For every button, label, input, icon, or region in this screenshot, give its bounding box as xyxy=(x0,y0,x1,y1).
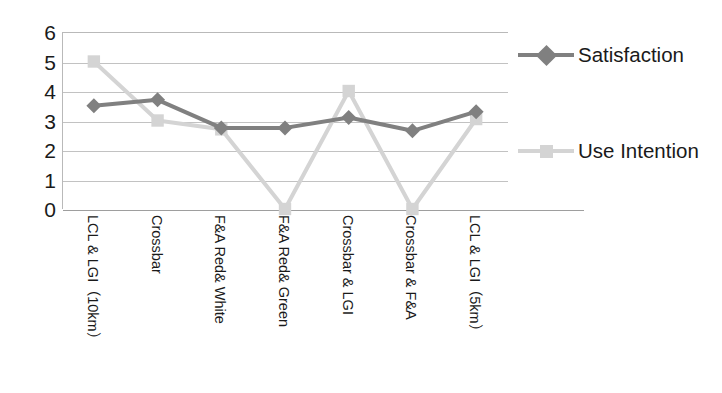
y-axis-tick-label: 4 xyxy=(44,81,56,102)
y-axis-tick-label: 5 xyxy=(44,51,56,72)
y-axis: 0123456 xyxy=(26,32,56,209)
legend-label: Use Intention xyxy=(578,140,699,163)
y-axis-tick-label: 1 xyxy=(44,169,56,190)
x-axis-category-label: F&A Red& Green xyxy=(276,215,291,327)
x-axis-category-label: Crossbar & LGI xyxy=(339,215,354,315)
legend-marker-square-icon xyxy=(518,140,574,162)
data-point-marker xyxy=(341,110,356,125)
series-layer xyxy=(62,32,508,209)
data-point-marker xyxy=(86,98,101,113)
series-satisfaction xyxy=(86,92,483,138)
data-point-marker xyxy=(150,92,165,107)
x-axis-category-label: Crossbar & F&A xyxy=(403,215,418,320)
legend-entry[interactable]: Satisfaction xyxy=(518,44,684,67)
x-axis-category-label: Crossbar xyxy=(148,215,163,274)
data-point-marker xyxy=(151,114,163,126)
y-axis-tick-label: 3 xyxy=(44,110,56,131)
data-point-marker xyxy=(405,123,420,138)
x-axis-category-label: LCL & LGI（5km） xyxy=(467,215,482,338)
legend-entry[interactable]: Use Intention xyxy=(518,140,699,163)
y-axis-tick-label: 6 xyxy=(44,22,56,43)
plot-area xyxy=(62,32,508,209)
data-point-marker xyxy=(88,55,100,67)
chart-container: 0123456 LCL & LGI（10km）CrossbarF&A Red& … xyxy=(0,0,722,393)
y-axis-tick-label: 0 xyxy=(44,199,56,220)
data-point-marker xyxy=(343,85,355,97)
legend-label: Satisfaction xyxy=(578,44,684,67)
x-axis-category-label: F&A Red& White xyxy=(212,215,227,324)
y-axis-tick-label: 2 xyxy=(44,140,56,161)
x-axis-category-label: LCL & LGI（10km） xyxy=(85,215,100,346)
data-point-marker xyxy=(278,120,293,135)
legend-marker-diamond-icon xyxy=(518,44,574,66)
x-axis: LCL & LGI（10km）CrossbarF&A Red& WhiteF&A… xyxy=(62,209,508,389)
